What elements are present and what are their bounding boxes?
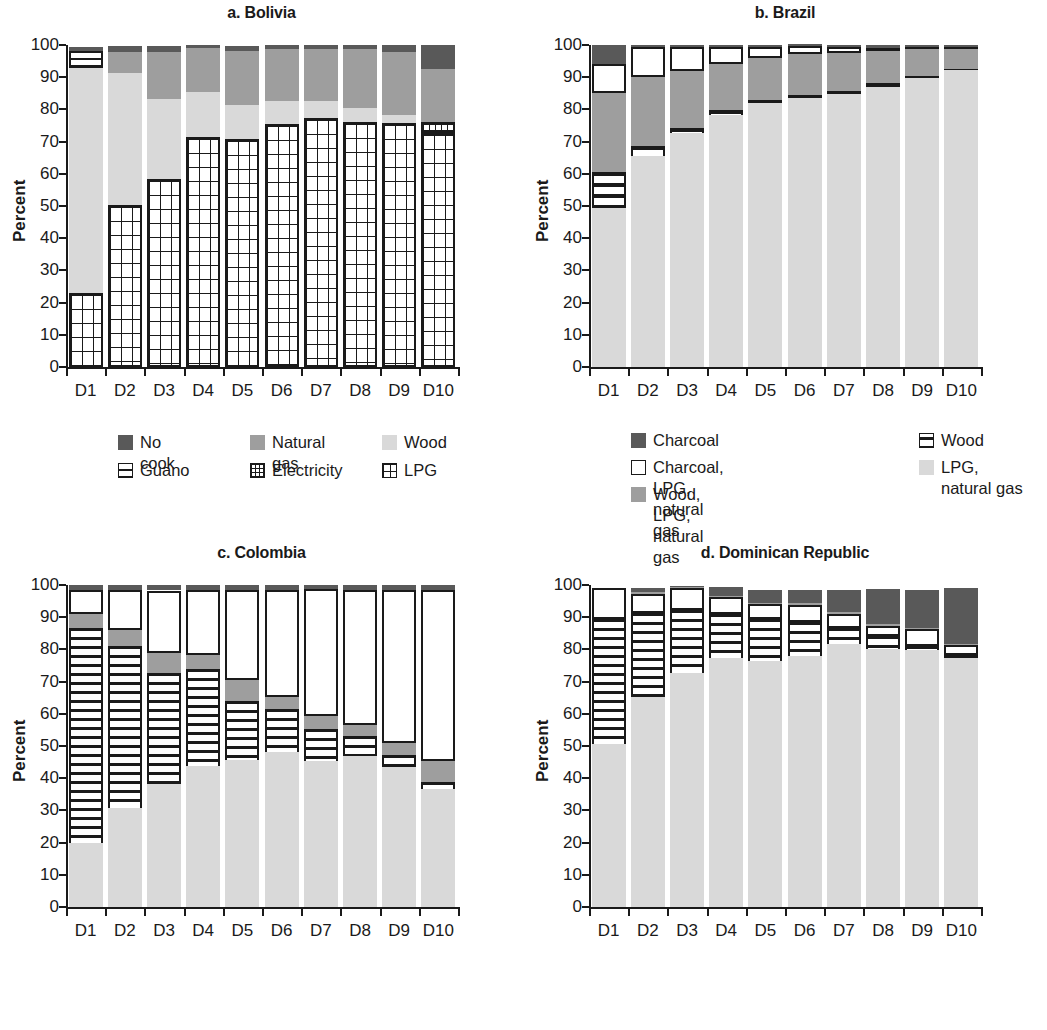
x-axis-tick-mark — [262, 909, 264, 916]
legend-swatch-icon — [118, 463, 133, 478]
bar-segment — [905, 646, 939, 650]
x-axis-tick-mark — [380, 369, 382, 376]
x-axis-tick-label: D3 — [676, 921, 698, 941]
stacked-bar-d4 — [709, 45, 743, 367]
bar-segment — [108, 808, 142, 907]
bar-segment — [186, 669, 220, 767]
y-axis-tick-mark — [582, 842, 589, 844]
bar-segment — [631, 613, 665, 697]
bar-segment — [709, 115, 743, 367]
x-axis-tick-mark — [223, 909, 225, 916]
bar-segment — [304, 101, 338, 119]
bar-segment — [108, 205, 142, 367]
bar-segment — [343, 122, 377, 367]
bar-segment — [592, 744, 626, 907]
panel-title: d. Dominican Republic — [523, 544, 1047, 562]
stacked-bar-d2 — [108, 45, 142, 367]
y-axis-tick-mark — [59, 269, 66, 271]
legend-item[interactable]: Wood — [382, 432, 447, 453]
y-axis-tick-mark — [582, 237, 589, 239]
bar-segment — [866, 83, 900, 87]
x-axis-tick-mark — [667, 909, 669, 916]
x-axis-tick-label: D2 — [637, 921, 659, 941]
x-axis-tick-mark — [903, 369, 905, 376]
x-axis-tick-mark — [942, 909, 944, 916]
legend-item[interactable]: Guano — [118, 460, 190, 481]
bar-segment — [186, 137, 220, 367]
legend-item[interactable]: LPG, natural gas — [919, 457, 1047, 499]
stacked-bar-d3 — [670, 45, 704, 367]
legend-item[interactable]: LPG — [382, 460, 437, 481]
legend-item[interactable]: Charcoal — [631, 430, 719, 451]
x-axis-tick-label: D3 — [153, 921, 175, 941]
bar-segment — [265, 709, 299, 752]
panel-colombia: c. Colombia Percent010203040506070809010… — [0, 540, 523, 1030]
x-axis-tick-mark — [184, 909, 186, 916]
bar-segment — [186, 92, 220, 137]
y-axis-tick-mark — [59, 302, 66, 304]
x-axis-tick-label: D9 — [388, 921, 410, 941]
plot-colombia: Percent0102030405060708090100D1D2D3D4D5D… — [66, 585, 458, 907]
bar-segment — [670, 588, 704, 610]
y-axis-tick-mark — [59, 584, 66, 586]
y-axis-label: Percent — [533, 720, 553, 782]
stacked-bar-d6 — [788, 45, 822, 367]
bar-segment — [147, 673, 181, 783]
stacked-bar-d2 — [631, 585, 665, 907]
legend-label: Wood — [404, 432, 447, 453]
legend-swatch-icon — [382, 435, 397, 450]
legend-item[interactable]: Wood — [919, 430, 984, 451]
y-axis-tick-mark — [582, 76, 589, 78]
stacked-bar-d7 — [304, 45, 338, 367]
y-axis-tick-mark — [59, 334, 66, 336]
y-axis-label: Percent — [10, 720, 30, 782]
legend-label: Wood — [941, 430, 984, 451]
y-axis-tick-mark — [582, 366, 589, 368]
bar-segment — [592, 45, 626, 64]
plot-bolivia: Percent0102030405060708090100D1D2D3D4D5D… — [66, 45, 458, 367]
x-axis-tick-label: D10 — [423, 921, 454, 941]
legend-swatch-icon — [250, 435, 265, 450]
y-axis-tick-mark — [59, 366, 66, 368]
stacked-bar-d4 — [186, 45, 220, 367]
x-axis-tick-mark — [105, 909, 107, 916]
y-axis-tick-mark — [59, 108, 66, 110]
y-axis-tick-mark — [59, 745, 66, 747]
bar-segment — [225, 105, 259, 139]
bar-segment — [866, 636, 900, 649]
panel-title: b. Brazil — [523, 4, 1047, 22]
legend-item[interactable]: Electricity — [250, 460, 343, 481]
bar-segment — [304, 45, 338, 49]
x-axis-tick-label: D4 — [192, 381, 214, 401]
bar-segment — [827, 590, 861, 613]
bar-segment — [748, 45, 782, 47]
bar-segment — [866, 589, 900, 624]
bar-segment — [905, 49, 939, 75]
bar-segment — [108, 590, 142, 631]
x-axis-tick-mark — [301, 369, 303, 376]
bar-segment — [304, 761, 338, 907]
x-axis-tick-mark — [942, 369, 944, 376]
bar-segment — [265, 49, 299, 101]
x-axis-tick-mark — [262, 369, 264, 376]
bar-segment — [709, 658, 743, 907]
legend-label: Guano — [140, 460, 190, 481]
x-axis-tick-mark — [144, 369, 146, 376]
bar-segment — [866, 87, 900, 367]
x-axis-tick-label: D6 — [271, 921, 293, 941]
plot-brazil: Percent0102030405060708090100D1D2D3D4D5D… — [589, 45, 981, 367]
bar-segment — [382, 755, 416, 767]
x-axis-tick-label: D7 — [310, 921, 332, 941]
x-axis-tick-label: D5 — [755, 381, 777, 401]
bar-segment — [827, 45, 861, 47]
bar-segment — [69, 614, 103, 628]
legend-swatch-icon — [631, 487, 646, 502]
stacked-bar-d1 — [592, 585, 626, 907]
bar-segment — [748, 604, 782, 619]
stacked-bar-d9 — [905, 45, 939, 367]
x-axis-tick-label: D6 — [271, 381, 293, 401]
x-axis-tick-label: D9 — [911, 381, 933, 401]
bar-segment — [421, 782, 455, 788]
bar-segment — [265, 752, 299, 907]
bar-segment — [108, 52, 142, 73]
